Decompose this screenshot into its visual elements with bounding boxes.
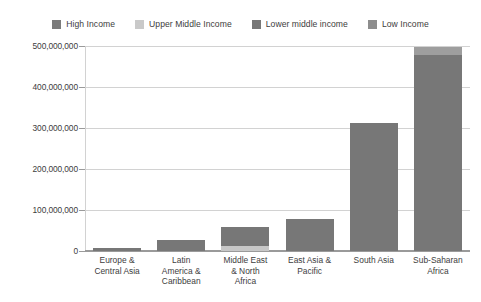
legend-item-label: Lower middle income bbox=[266, 19, 348, 29]
x-axis-tick-label: Sub-SaharanAfrica bbox=[406, 255, 470, 276]
chart-container: High Income Upper Middle Income Lower mi… bbox=[0, 0, 481, 302]
bar-segment[interactable] bbox=[93, 248, 141, 251]
legend-item-low-income[interactable]: Low Income bbox=[368, 19, 429, 29]
bar-segment[interactable] bbox=[414, 47, 462, 55]
chart-legend: High Income Upper Middle Income Lower mi… bbox=[0, 19, 481, 29]
bar-segment[interactable] bbox=[221, 246, 269, 251]
gridline bbox=[85, 251, 470, 252]
legend-swatch-icon bbox=[368, 20, 377, 29]
legend-item-high-income[interactable]: High Income bbox=[52, 19, 115, 29]
y-axis-tick-label: 400,000,000 bbox=[0, 83, 78, 92]
bar-series-container bbox=[85, 46, 470, 251]
x-axis-tick-label: Middle East& NorthAfrica bbox=[213, 255, 277, 287]
bar-segment[interactable] bbox=[350, 123, 398, 251]
bar-group[interactable] bbox=[93, 248, 141, 251]
legend-item-upper-middle-income[interactable]: Upper Middle Income bbox=[135, 19, 232, 29]
y-axis-tick-label: 500,000,000 bbox=[0, 42, 78, 51]
bar-group[interactable] bbox=[414, 47, 462, 251]
x-axis: Europe &Central AsiaLatinAmerica &Caribb… bbox=[85, 255, 470, 300]
y-axis-tick-label: 300,000,000 bbox=[0, 124, 78, 133]
bar-segment[interactable] bbox=[157, 240, 205, 251]
bar-group[interactable] bbox=[286, 219, 334, 251]
legend-swatch-icon bbox=[52, 20, 61, 29]
x-axis-tick-label: LatinAmerica &Caribbean bbox=[149, 255, 213, 287]
legend-item-lower-middle-income[interactable]: Lower middle income bbox=[252, 19, 348, 29]
x-axis-tick-label: Europe &Central Asia bbox=[85, 255, 149, 276]
bar-group[interactable] bbox=[350, 123, 398, 251]
y-axis-tick-label: 200,000,000 bbox=[0, 165, 78, 174]
legend-item-label: Low Income bbox=[382, 19, 429, 29]
plot-area bbox=[85, 46, 470, 251]
bar-segment[interactable] bbox=[221, 227, 269, 246]
y-axis-tick-label: 0 bbox=[0, 247, 78, 256]
bar-segment[interactable] bbox=[414, 55, 462, 251]
y-axis: 0100,000,000200,000,000300,000,000400,00… bbox=[0, 46, 78, 251]
legend-item-label: High Income bbox=[66, 19, 115, 29]
bar-group[interactable] bbox=[221, 227, 269, 251]
y-axis-tick-label: 100,000,000 bbox=[0, 206, 78, 215]
x-axis-tick-label: South Asia bbox=[342, 255, 406, 266]
legend-swatch-icon bbox=[252, 20, 261, 29]
bar-segment[interactable] bbox=[286, 219, 334, 251]
legend-item-label: Upper Middle Income bbox=[149, 19, 232, 29]
legend-swatch-icon bbox=[135, 20, 144, 29]
x-axis-tick-label: East Asia &Pacific bbox=[278, 255, 342, 276]
bar-group[interactable] bbox=[157, 240, 205, 251]
